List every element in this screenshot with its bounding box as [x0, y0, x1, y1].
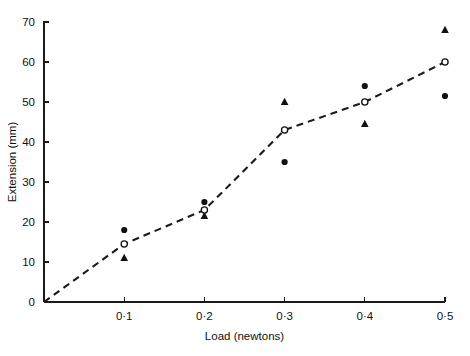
- plot-canvas: 0102030405060700·10·20·30·40·5Load (newt…: [0, 0, 470, 356]
- x-tick-label: 0·5: [437, 310, 454, 322]
- y-tick-label: 60: [22, 56, 35, 68]
- data-point-circle-open: [362, 99, 368, 105]
- data-point-circle-filled: [121, 227, 127, 233]
- data-point-triangle-filled: [281, 98, 289, 105]
- y-tick-label: 40: [22, 136, 35, 148]
- data-point-circle-filled: [282, 159, 288, 165]
- x-tick-label: 0·2: [196, 310, 213, 322]
- data-point-circle-filled: [362, 83, 368, 89]
- data-point-circle-open: [201, 207, 207, 213]
- y-tick-label: 30: [22, 176, 35, 188]
- x-tick-label: 0·4: [356, 310, 373, 322]
- axes-layer: [44, 21, 445, 302]
- y-axis-title: Extension (mm): [6, 122, 18, 203]
- data-point-circle-open: [121, 241, 127, 247]
- x-tick-label: 0·1: [116, 310, 133, 322]
- labels-layer: 0102030405060700·10·20·30·40·5Load (newt…: [6, 16, 453, 342]
- trend-line-dashed: [44, 62, 445, 302]
- series-layer: [44, 26, 449, 302]
- y-tick-label: 10: [22, 256, 35, 268]
- x-tick-label: 0·3: [276, 310, 293, 322]
- data-point-triangle-filled: [361, 120, 369, 127]
- y-tick-label: 50: [22, 96, 35, 108]
- y-tick-label: 20: [22, 216, 35, 228]
- y-tick-label: 0: [29, 296, 35, 308]
- data-point-triangle-filled: [120, 254, 128, 261]
- chart-figure: 0102030405060700·10·20·30·40·5Load (newt…: [0, 0, 470, 356]
- data-point-triangle-filled: [441, 26, 449, 33]
- data-point-circle-open: [442, 59, 448, 65]
- data-point-circle-filled: [201, 199, 207, 205]
- data-point-circle-filled: [442, 93, 448, 99]
- data-point-circle-open: [282, 127, 288, 133]
- x-axis-title: Load (newtons): [205, 330, 284, 342]
- y-tick-label: 70: [22, 16, 35, 28]
